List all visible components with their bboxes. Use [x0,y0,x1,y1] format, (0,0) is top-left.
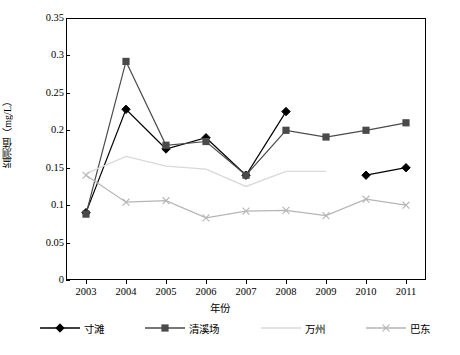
x-tick-label: 2008 [266,286,306,298]
legend-label: 万州 [305,321,325,336]
x-tick-mark [166,280,167,284]
y-tick-mark [66,168,70,169]
y-tick-label: 0 [30,275,64,285]
data-point [402,164,410,172]
data-point [202,138,209,145]
y-tick-label: 0.25 [30,88,64,98]
legend-label: 清溪场 [189,321,219,336]
x-tick-label: 2011 [386,286,426,298]
y-tick-label: 0.2 [30,125,64,135]
data-point [122,58,129,65]
y-tick-mark [66,205,70,206]
x-tick-mark [86,280,87,284]
x-tick-mark [406,280,407,284]
plot-lines [66,18,426,280]
series-line [86,156,326,186]
legend-item: 寸滩 [40,321,104,336]
x-tick-label: 2003 [66,286,106,298]
legend-swatch-cross-icon [366,322,406,334]
legend-label: 寸滩 [84,321,104,336]
legend-label: 巴东 [410,321,430,336]
y-tick-label: 0.15 [30,163,64,173]
legend-item: 万州 [261,321,325,336]
data-point [362,127,369,134]
x-tick-mark [326,280,327,284]
data-point [162,142,169,149]
x-tick-label: 2010 [346,286,386,298]
data-point [402,119,409,126]
chart-legend: 寸滩清溪场万州巴东 [40,316,430,340]
x-tick-mark [286,280,287,284]
y-tick-label: 0.05 [30,238,64,248]
x-tick-label: 2004 [106,286,146,298]
legend-item: 巴东 [366,321,430,336]
y-tick-mark [66,130,70,131]
x-tick-mark [206,280,207,284]
series-line [86,61,406,214]
y-tick-mark [66,55,70,56]
data-point [83,172,90,179]
x-axis-title: 年份 [210,300,230,315]
series-2 [82,58,409,218]
y-tick-mark [66,93,70,94]
legend-item: 清溪场 [145,321,219,336]
data-point [282,107,290,115]
y-axis-title: 监测值（mg/L） [2,96,20,168]
y-tick-label: 0.1 [30,200,64,210]
y-tick-mark [66,18,70,19]
x-tick-label: 2009 [306,286,346,298]
y-tick-mark [66,243,70,244]
chart-container: 监测值（mg/L） 00.050.10.150.20.250.30.35 200… [0,0,460,355]
x-tick-mark [246,280,247,284]
series-3 [86,156,326,186]
legend-swatch-square-icon [145,322,185,334]
y-tick-label: 0.3 [30,50,64,60]
x-tick-label: 2007 [226,286,266,298]
data-point [322,133,329,140]
data-point [362,171,370,179]
data-point [82,211,89,218]
y-axis-title-text: 监测值（mg/L） [2,96,13,168]
series-1 [82,105,410,217]
legend-swatch-none-icon [261,322,301,334]
y-tick-mark [66,280,70,281]
data-point [282,127,289,134]
x-tick-mark [126,280,127,284]
series-line [366,168,406,175]
x-tick-label: 2006 [186,286,226,298]
x-axis-ticks: 200320042005200620072008200920102011 [66,282,426,300]
y-axis-ticks: 00.050.10.150.20.250.30.35 [22,18,64,280]
x-tick-label: 2005 [146,286,186,298]
data-point [242,172,249,179]
y-tick-label: 0.35 [30,13,64,23]
x-tick-mark [366,280,367,284]
legend-swatch-diamond-icon [40,322,80,334]
